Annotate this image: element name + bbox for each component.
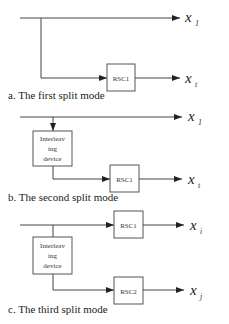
output-xi-subscript: i	[200, 227, 202, 236]
output-xt-label: x	[187, 171, 195, 187]
interleaver-label-line2: ing	[48, 145, 57, 153]
interleaver-to-rsc1-arrow	[53, 166, 110, 179]
interleaver-to-rsc2-arrow	[53, 274, 114, 290]
split-mode-diagram: x 1 RSC1 x t a. The first split mode x 1…	[0, 0, 229, 324]
interleaver-label-line1: Interleav	[40, 135, 65, 143]
output-x1-label: x	[184, 9, 192, 25]
panel-b-second-split-mode: x 1 Interleav ing device RSC1 x t b. The…	[8, 108, 202, 203]
output-xt-label: x	[184, 70, 192, 86]
output-xt-subscript: t	[195, 80, 198, 89]
interleaver-label-line1: Interleav	[40, 242, 65, 250]
output-xt-subscript: t	[198, 181, 201, 190]
output-x1-subscript: 1	[198, 118, 202, 127]
caption-a: a. The first split mode	[8, 89, 105, 101]
caption-b: b. The second split mode	[8, 191, 118, 203]
output-x1-subscript: 1	[195, 19, 199, 28]
interleaver-label-line3: device	[43, 262, 61, 270]
output-xj-subscript: j	[199, 292, 203, 301]
interleaver-label-line3: device	[43, 155, 61, 163]
branch-to-rsc1-arrow	[41, 18, 107, 78]
panel-a-first-split-mode: x 1 RSC1 x t a. The first split mode	[8, 9, 199, 101]
output-x1-label: x	[187, 108, 195, 124]
output-xi-label: x	[189, 217, 197, 233]
rsc1-label: RSC1	[113, 75, 130, 83]
rsc1-label: RSC1	[120, 222, 137, 230]
caption-c: c. The third split mode	[8, 303, 108, 315]
panel-c-third-split-mode: RSC1 x i Interleav ing device RSC2 x j c…	[8, 211, 203, 315]
interleaver-label-line2: ing	[48, 252, 57, 260]
rsc2-label: RSC2	[120, 288, 137, 296]
output-xj-label: x	[189, 282, 197, 298]
rsc1-label: RSC1	[116, 176, 133, 184]
